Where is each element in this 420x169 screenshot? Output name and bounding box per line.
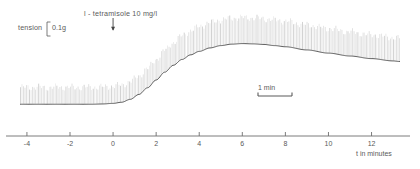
tension-scale-value: 0.1g bbox=[52, 23, 66, 32]
tension-axis-label: tension bbox=[18, 23, 42, 32]
tension-trace-line bbox=[20, 44, 399, 105]
x-tick-label: 10 bbox=[316, 140, 340, 147]
x-tick-label: -4 bbox=[15, 140, 39, 147]
x-tick-label: 6 bbox=[230, 140, 254, 147]
drug-arrow-head bbox=[111, 27, 115, 31]
x-tick-label: 12 bbox=[360, 140, 384, 147]
tension-recording-figure: tension 0.1g l - tetramisole 10 mg/l 1 m… bbox=[0, 0, 420, 169]
x-tick-label: 8 bbox=[273, 140, 297, 147]
x-tick-label: 0 bbox=[101, 140, 125, 147]
drug-annotation-label: l - tetramisole 10 mg/l bbox=[84, 9, 157, 18]
time-scalebar-label: 1 min bbox=[258, 84, 275, 91]
x-tick-label: -2 bbox=[58, 140, 82, 147]
x-tick-label: 2 bbox=[144, 140, 168, 147]
x-tick-label: 4 bbox=[187, 140, 211, 147]
x-axis-caption: t in minutes bbox=[356, 150, 392, 157]
oscillation-hatching bbox=[20, 15, 399, 104]
